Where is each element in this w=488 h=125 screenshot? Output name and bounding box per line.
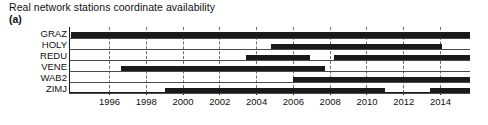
x-tick-label-2002: 2002 bbox=[209, 96, 230, 107]
bar-redu-2 bbox=[334, 55, 470, 60]
bar-graz-1 bbox=[71, 32, 470, 38]
row-baseline-graz bbox=[69, 38, 470, 39]
x-tick-label-2004: 2004 bbox=[246, 96, 267, 107]
bar-wab2-1 bbox=[293, 77, 470, 82]
availability-gantt-chart: 1996199820002002200420062008201020122014… bbox=[0, 0, 488, 125]
station-label-wab2: WAB2 bbox=[40, 73, 67, 83]
station-label-redu: REDU bbox=[40, 51, 67, 61]
x-tick-label-2008: 2008 bbox=[320, 96, 341, 107]
bar-redu-1 bbox=[246, 55, 310, 60]
station-label-vene: VENE bbox=[41, 62, 67, 72]
x-tick-label-1996: 1996 bbox=[99, 96, 120, 107]
station-label-graz: GRAZ bbox=[41, 29, 67, 39]
x-tick-label-2006: 2006 bbox=[283, 96, 304, 107]
x-tick-label-1998: 1998 bbox=[136, 96, 157, 107]
station-label-holy: HOLY bbox=[42, 40, 67, 50]
x-tick-label-2014: 2014 bbox=[430, 96, 451, 107]
bar-zimj-2 bbox=[430, 88, 470, 93]
bar-zimj-1 bbox=[165, 88, 386, 93]
x-tick-label-2012: 2012 bbox=[393, 96, 414, 107]
station-label-zimj: ZIMJ bbox=[46, 84, 67, 94]
x-tick-label-2010: 2010 bbox=[356, 96, 377, 107]
row-baseline-holy bbox=[69, 49, 470, 50]
bar-holy-1 bbox=[271, 44, 442, 49]
row-baseline-wab2 bbox=[69, 82, 470, 83]
bar-vene-1 bbox=[121, 66, 325, 71]
row-baseline-vene bbox=[69, 71, 470, 72]
x-tick-label-2000: 2000 bbox=[172, 96, 193, 107]
row-baseline-redu bbox=[69, 60, 470, 61]
row-baseline-zimj bbox=[69, 93, 470, 94]
